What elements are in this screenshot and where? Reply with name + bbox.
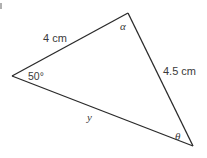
side-label-4cm: 4 cm	[43, 32, 67, 44]
side-label-4-5cm: 4.5 cm	[163, 65, 196, 77]
edge-cutoff-mark	[0, 3, 2, 9]
angle-label-alpha: α	[120, 20, 126, 32]
triangle-diagram: 4 cm 4.5 cm y α 50° θ	[0, 0, 207, 158]
side-top-right	[128, 13, 193, 146]
angle-label-theta: θ	[175, 130, 181, 142]
side-top-left	[12, 13, 128, 76]
angle-label-50deg: 50°	[28, 70, 44, 82]
side-bottom	[12, 76, 193, 146]
side-label-y: y	[86, 111, 92, 123]
